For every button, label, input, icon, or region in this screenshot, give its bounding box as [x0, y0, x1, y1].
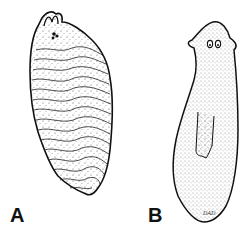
panel-label-a: A: [10, 205, 24, 225]
figure: A B DAD: [0, 0, 247, 238]
artist-signature: DAD: [203, 210, 215, 216]
specimen-b: [173, 22, 238, 222]
specimen-a: [30, 12, 112, 195]
panel-label-b: B: [148, 205, 162, 225]
illustration-canvas: [0, 0, 247, 238]
